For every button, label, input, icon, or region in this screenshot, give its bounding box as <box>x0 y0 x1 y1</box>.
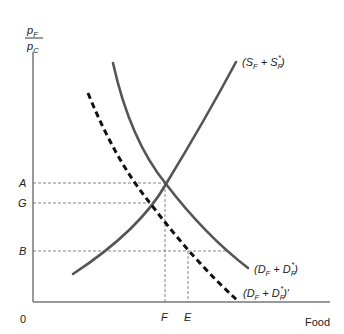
supply-curve-label: (SF + SF*) <box>242 53 285 71</box>
price-label-b: B <box>19 245 26 257</box>
origin-label: 0 <box>20 313 26 325</box>
demand-curve <box>113 63 248 268</box>
price-label-g: G <box>18 197 27 209</box>
price-label-a: A <box>18 177 26 189</box>
svg-text:pF: pF <box>26 24 38 39</box>
supply-demand-diagram: pF pC 0 Food A G B F E (SF + SF*) (DF + … <box>0 0 344 334</box>
y-axis-label: pF pC <box>25 24 43 55</box>
quantity-label-e: E <box>184 311 192 323</box>
svg-text:pC: pC <box>26 40 39 55</box>
shifted-demand-curve-label: (DF + DF*)′ <box>243 284 290 302</box>
demand-curve-label: (DF + DF*) <box>254 260 298 278</box>
shifted-demand-curve <box>88 93 237 300</box>
quantity-label-f: F <box>161 311 169 323</box>
x-axis-label: Food <box>305 316 330 328</box>
